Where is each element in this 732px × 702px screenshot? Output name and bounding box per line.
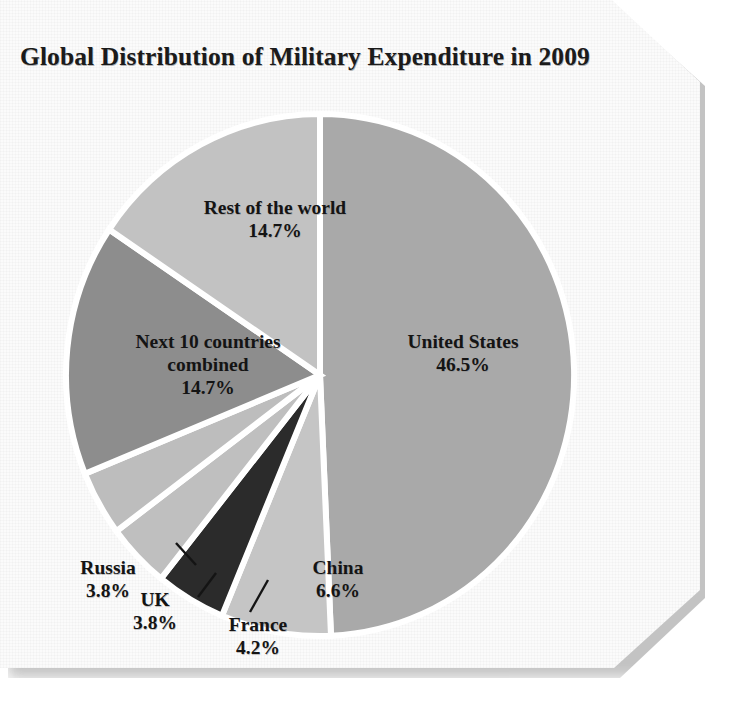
slice-label-next-10-countries-name: Next 10 countries [92,330,324,353]
slice-label-china-name: China [268,556,408,579]
slice-label-rest-of-the-world: Rest of the world 14.7% [160,196,390,242]
slice-label-next-10-countries: Next 10 countries combined 14.7% [92,330,324,399]
slice-label-united-states-name: United States [378,330,548,353]
slice-label-russia-name: Russia [48,556,168,579]
slice-label-next-10-countries-name-2: combined [92,353,324,376]
slice-label-china: China 6.6% [268,556,408,602]
slice-label-next-10-countries-value: 14.7% [92,376,324,399]
slice-label-uk-name: UK [100,588,210,611]
slice-label-rest-of-the-world-name: Rest of the world [160,196,390,219]
slice-label-france-name: France [178,613,338,636]
slice-label-france-value: 4.2% [178,636,338,659]
figure-root: Global Distribution of Military Expendit… [0,0,732,702]
slice-label-rest-of-the-world-value: 14.7% [160,219,390,242]
slice-label-united-states: United States 46.5% [378,330,548,376]
slice-label-united-states-value: 46.5% [378,353,548,376]
slice-label-france: France 4.2% [178,613,338,659]
slice-label-china-value: 6.6% [268,579,408,602]
